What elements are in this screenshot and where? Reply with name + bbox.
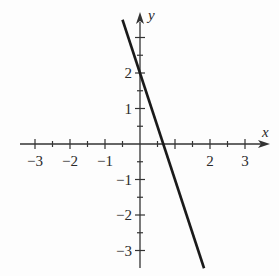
x-axis-label: x xyxy=(261,124,269,140)
x-tick-label: 3 xyxy=(241,153,249,169)
x-tick-label: −3 xyxy=(27,153,43,169)
x-tick-label: −2 xyxy=(62,153,78,169)
x-tick-label: −1 xyxy=(97,153,113,169)
y-tick-label: −2 xyxy=(116,207,132,223)
y-tick-label: 1 xyxy=(125,101,133,117)
x-tick-label: 2 xyxy=(206,153,214,169)
axes xyxy=(20,12,270,268)
y-axis-label: y xyxy=(146,7,155,23)
plot-area: −3−2−12321−1−2−3 x y xyxy=(0,0,279,276)
y-tick-label: 2 xyxy=(125,65,133,81)
y-tick-label: −1 xyxy=(116,172,132,188)
y-tick-label: −3 xyxy=(116,243,132,259)
chart-root: −3−2−12321−1−2−3 x y xyxy=(0,0,279,276)
